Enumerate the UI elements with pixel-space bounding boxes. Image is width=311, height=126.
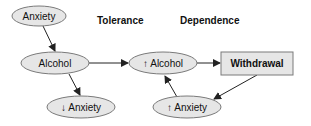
- edge-anxiety-to-alcohol: [43, 26, 55, 51]
- anxiety-alcohol-cycle-diagram: Tolerance Dependence Anxiety Alcohol ↑ A…: [0, 0, 311, 126]
- edge-withdrawal-to-increased-anxiety: [214, 75, 257, 99]
- edge-increased-anxiety-to-increased-alcohol: [165, 76, 177, 97]
- node-decreased-anxiety: ↓ Anxiety: [47, 96, 115, 118]
- node-decreased-anxiety-label: ↓ Anxiety: [61, 102, 101, 113]
- node-increased-alcohol-label: ↑ Alcohol: [143, 58, 183, 69]
- node-increased-alcohol: ↑ Alcohol: [129, 52, 197, 74]
- node-alcohol-label: Alcohol: [39, 58, 72, 69]
- node-anxiety: Anxiety: [12, 6, 66, 26]
- node-withdrawal: Withdrawal: [221, 52, 293, 75]
- node-alcohol: Alcohol: [21, 52, 89, 74]
- heading-tolerance: Tolerance: [97, 15, 144, 26]
- node-withdrawal-label: Withdrawal: [230, 58, 283, 69]
- heading-dependence: Dependence: [180, 15, 240, 26]
- node-increased-anxiety-label: ↑ Anxiety: [167, 102, 207, 113]
- node-anxiety-label: Anxiety: [23, 11, 56, 22]
- edge-alcohol-to-decreased-anxiety: [69, 74, 80, 95]
- node-increased-anxiety: ↑ Anxiety: [153, 96, 221, 118]
